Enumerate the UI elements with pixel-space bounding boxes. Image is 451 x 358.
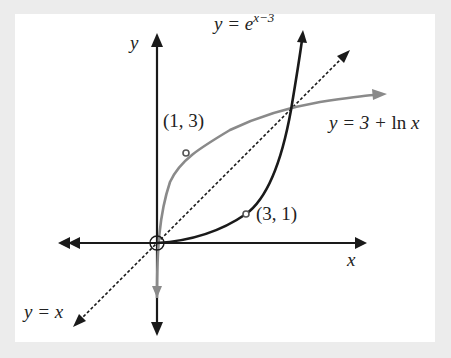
y-axis-label: y xyxy=(130,33,138,52)
y-axis-down-arrow-icon xyxy=(151,322,163,336)
x-axis xyxy=(58,237,367,249)
point-1-3 xyxy=(183,150,189,156)
point-3-1 xyxy=(243,211,249,217)
x-axis-label: x xyxy=(347,250,355,269)
log-label: y = 3 + ln x xyxy=(329,113,420,132)
exponential-arrow-icon xyxy=(297,30,307,43)
identity-label: y = x xyxy=(24,302,63,321)
y-axis-arrow-icon xyxy=(151,33,163,47)
graph-canvas xyxy=(0,0,451,358)
log-asymptote-arrow-icon xyxy=(152,286,162,298)
point-3-1-label: (3, 1) xyxy=(256,204,297,223)
point-1-3-label: (1, 3) xyxy=(163,111,204,130)
identity-line xyxy=(73,50,350,327)
x-axis-arrow-icon xyxy=(355,237,367,249)
log-arrow-icon xyxy=(372,89,387,100)
exponential-label: y = ex−3 xyxy=(214,11,274,33)
